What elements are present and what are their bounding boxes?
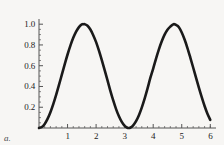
- y-tick-label: 0.6: [24, 61, 35, 71]
- x-tick-label: 5: [180, 131, 184, 141]
- panel-label: a.: [4, 133, 11, 143]
- y-tick-label: 0.2: [24, 102, 35, 112]
- y-tick-label: 0.4: [24, 81, 35, 91]
- x-tick-label: 6: [208, 131, 212, 141]
- x-tick-label: 4: [151, 131, 155, 141]
- plot-area: 0.20.40.60.81.0123456: [0, 0, 224, 145]
- x-tick-label: 1: [65, 131, 69, 141]
- figure-panel: 0.20.40.60.81.0123456 a.: [0, 0, 224, 145]
- y-tick-label: 0.8: [24, 40, 35, 50]
- x-tick-label: 3: [122, 131, 126, 141]
- y-tick-label: 1.0: [24, 19, 35, 29]
- axes-group: [39, 19, 216, 128]
- data-curve: [39, 24, 210, 128]
- x-tick-label: 2: [94, 131, 98, 141]
